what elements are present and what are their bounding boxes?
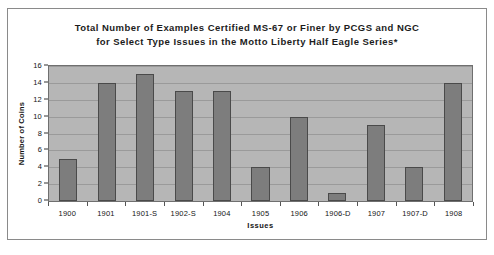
chart-title-line-1: Total Number of Examples Certified MS-67…	[8, 21, 486, 35]
bar[interactable]	[328, 193, 346, 201]
x-axis-title: Issues	[48, 221, 473, 230]
x-axis-tick-label: 1901	[87, 203, 126, 219]
y-axis-tick-label: 4	[38, 162, 42, 171]
bar[interactable]	[136, 74, 154, 201]
bar-slot	[241, 66, 279, 201]
x-axis-tick-label: 1908	[434, 203, 473, 219]
chart-frame: Total Number of Examples Certified MS-67…	[7, 8, 487, 240]
bar[interactable]	[59, 159, 77, 201]
x-axis-tick-label: 1906-D	[318, 203, 357, 219]
x-axis-tick-label: 1900	[48, 203, 87, 219]
bar[interactable]	[367, 125, 385, 201]
x-axis-tick-label: 1902-S	[164, 203, 203, 219]
bar-slot	[280, 66, 318, 201]
bar-slot	[49, 66, 87, 201]
bar-slot	[357, 66, 395, 201]
y-axis-ticks: 0246810121416	[8, 65, 48, 202]
bar-slot	[126, 66, 164, 201]
x-axis-tick-label: 1907	[357, 203, 396, 219]
bar[interactable]	[444, 83, 462, 201]
y-axis-tick-label: 0	[38, 196, 42, 205]
bar-slot	[318, 66, 356, 201]
x-axis-ticks: 190019011901-S1902-S1904190519061906-D19…	[48, 203, 473, 219]
x-axis-tick-label: 1906	[280, 203, 319, 219]
bar-slot	[203, 66, 241, 201]
y-axis-tick-label: 10	[33, 111, 42, 120]
y-axis-tick-label: 6	[38, 145, 42, 154]
bar[interactable]	[405, 167, 423, 201]
bar-series	[49, 66, 472, 201]
bar-slot	[164, 66, 202, 201]
y-axis-tick-label: 16	[33, 61, 42, 70]
x-axis-tick-label: 1907-D	[396, 203, 435, 219]
y-axis-tick-label: 14	[33, 77, 42, 86]
plot-area	[48, 65, 473, 202]
bar[interactable]	[251, 167, 269, 201]
bar-slot	[87, 66, 125, 201]
chart-title: Total Number of Examples Certified MS-67…	[8, 21, 486, 49]
bar[interactable]	[213, 91, 231, 201]
y-axis-tick-label: 8	[38, 128, 42, 137]
x-axis-tick-mark	[473, 202, 474, 206]
x-axis-tick-label: 1901-S	[125, 203, 164, 219]
bar-slot	[434, 66, 472, 201]
y-axis-tick-label: 2	[38, 179, 42, 188]
bar-slot	[395, 66, 433, 201]
chart-title-line-2: for Select Type Issues in the Motto Libe…	[8, 35, 486, 49]
y-axis-tick-label: 12	[33, 94, 42, 103]
x-axis-tick-label: 1905	[241, 203, 280, 219]
bar[interactable]	[175, 91, 193, 201]
bar[interactable]	[98, 83, 116, 201]
x-axis-tick-label: 1904	[203, 203, 242, 219]
bar[interactable]	[290, 117, 308, 201]
